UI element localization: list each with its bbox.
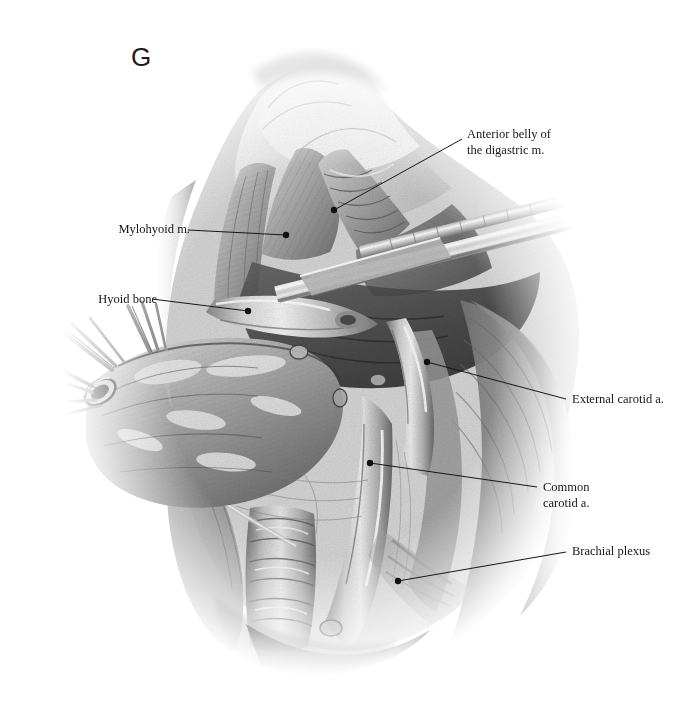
label-external-carotid-artery: External carotid a. <box>572 392 664 408</box>
anatomical-illustration <box>0 0 697 706</box>
label-anterior-belly-digastric: Anterior belly of the digastric m. <box>467 127 551 158</box>
label-mylohyoid-muscle: Mylohyoid m. <box>0 222 190 238</box>
label-hyoid-bone: Hyoid bone <box>0 292 157 308</box>
label-brachial-plexus: Brachial plexus <box>572 544 650 560</box>
label-common-carotid-artery: Common carotid a. <box>543 480 590 511</box>
figure-root: G <box>0 0 697 706</box>
